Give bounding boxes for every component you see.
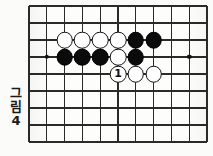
grid-line-horizontal-8 [29,141,207,142]
star-point-right [187,55,191,59]
figure-caption: 그 림 4 [6,86,26,128]
white-stone-r4c6[interactable] [128,66,145,83]
white-stone-r2c3[interactable] [74,32,91,49]
grid-line-horizontal-6 [29,107,207,108]
caption-char-2: 림 [6,100,26,114]
white-stone-r2c2[interactable] [56,32,73,49]
go-diagram-screenshot: 그 림 4 1 [0,0,213,156]
black-stone-r3c3[interactable] [74,49,91,66]
white-stone-r2c4[interactable] [92,32,109,49]
white-stone-r4c7[interactable] [145,66,162,83]
go-board: 1 [29,6,207,142]
stone-move-number: 1 [111,69,126,80]
white-stone-r2c5[interactable] [110,32,127,49]
caption-char-1: 그 [6,86,26,100]
grid-line-horizontal-1 [29,22,207,23]
white-stone-move-1[interactable]: 1 [110,66,127,83]
grid-line-horizontal-7 [29,124,207,125]
star-point-left [45,55,49,59]
black-stone-r2c6[interactable] [128,32,145,49]
black-stone-r3c4[interactable] [92,49,109,66]
grid-line-horizontal-5 [29,90,207,91]
black-stone-r3c6[interactable] [128,49,145,66]
black-stone-r3c2[interactable] [56,49,73,66]
black-stone-r2c7[interactable] [145,32,162,49]
white-stone-r3c5[interactable] [110,49,127,66]
grid-line-horizontal-0 [29,5,207,6]
caption-number: 4 [6,114,26,128]
